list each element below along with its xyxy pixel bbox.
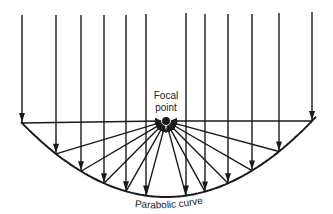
reflected-ray-11: [171, 122, 279, 151]
arrowhead-icon: [19, 113, 25, 122]
reflected-ray-6: [146, 126, 165, 196]
reflected-rays: [22, 121, 312, 196]
reflected-ray-3: [81, 124, 162, 172]
reflected-ray-10: [170, 123, 252, 170]
focal-point-dot: [162, 117, 170, 125]
parabolic-reflector-diagram: Focal point Parabolic curve: [0, 0, 333, 214]
reflected-ray-4: [104, 125, 162, 184]
reflected-ray-1: [22, 121, 161, 123]
reflected-ray-7: [167, 126, 186, 196]
focal-point-label-line2: point: [155, 102, 177, 113]
focal-point-label-line1: Focal: [154, 90, 178, 101]
arrowhead-icon: [202, 182, 208, 191]
reflected-ray-5: [126, 125, 164, 191]
reflected-ray-8: [168, 125, 205, 191]
reflected-ray-9: [170, 125, 228, 184]
